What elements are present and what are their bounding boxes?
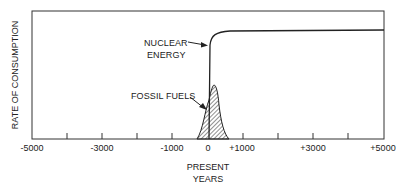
fossil-fuels-curve	[197, 85, 229, 139]
x-tick-label: -1000	[160, 143, 183, 153]
x-tick-label: -3000	[90, 143, 113, 153]
fossil-label: FOSSIL FUELS	[131, 91, 195, 101]
x-tick-label: -5000	[20, 143, 43, 153]
x-tick-label: +5000	[370, 143, 395, 153]
nuclear-energy-curve	[209, 30, 384, 139]
x-axis-label-2: YEARS	[187, 173, 230, 185]
x-tick-label: +1000	[229, 143, 254, 153]
x-axis-label: PRESENT YEARS	[187, 161, 230, 185]
x-tick-label: 0	[205, 143, 210, 153]
nuclear-label-1: NUCLEAR	[144, 38, 188, 48]
y-axis-label: RATE OF CONSUMPTION	[10, 20, 20, 130]
nuclear-label-2: ENERGY	[147, 50, 186, 60]
nuclear-arrow	[188, 42, 208, 48]
x-tick-label: +3000	[300, 143, 325, 153]
x-axis-label-1: PRESENT	[187, 161, 230, 173]
